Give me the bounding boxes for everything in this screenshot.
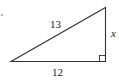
stray-dot [1,14,3,16]
base-label: 12 [52,66,63,78]
triangle-diagram: 13 12 x [0,0,119,81]
hypotenuse-label: 13 [50,18,62,30]
right-triangle [11,8,106,62]
right-angle-marker [100,56,106,62]
height-label: x [110,27,116,39]
